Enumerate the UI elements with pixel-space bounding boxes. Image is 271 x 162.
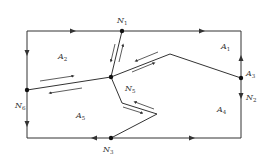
boundary-arrows — [25, 29, 244, 141]
flow-n6-left — [50, 88, 82, 93]
nodes — [25, 29, 243, 140]
edge-n6-n5 — [27, 77, 111, 90]
network-diagram: N1 N2 N3 N5 N6 A1 A2 A3 A4 A5 — [0, 0, 271, 162]
arrow-right-lower-down — [239, 93, 244, 99]
arrow-top-right — [199, 29, 205, 34]
node-n1 — [120, 29, 124, 33]
outer-boundary — [27, 31, 241, 138]
edge-n5-n2 — [111, 54, 241, 78]
node-n2 — [239, 76, 243, 80]
internal-edges — [27, 31, 241, 138]
arrow-bottom-right — [189, 136, 195, 141]
label-a2: A2 — [57, 52, 67, 62]
label-n1: N1 — [116, 16, 128, 26]
flow-n1-down — [111, 44, 115, 61]
arrow-top-left — [70, 29, 76, 34]
arrow-left-lower-down — [25, 121, 30, 127]
region-labels: A1 A2 A3 A4 A5 — [57, 42, 256, 121]
node-n5 — [109, 75, 113, 79]
label-a3: A3 — [245, 69, 256, 79]
node-labels: N1 N2 N3 N5 N6 — [14, 16, 257, 155]
label-a5: A5 — [75, 111, 86, 121]
label-n3: N3 — [102, 145, 114, 155]
arrow-bottom-left — [91, 136, 97, 141]
label-n6: N6 — [14, 101, 26, 111]
label-a4: A4 — [216, 105, 227, 115]
arrow-left-down — [25, 50, 30, 56]
label-a1: A1 — [220, 42, 230, 52]
arrow-right-upper — [239, 55, 244, 61]
label-n5: N5 — [124, 84, 136, 94]
node-n3 — [109, 136, 113, 140]
flow-n6-right — [40, 76, 73, 81]
flow-n1-up — [119, 45, 123, 62]
label-n2: N2 — [245, 93, 257, 103]
node-n6 — [25, 88, 29, 92]
